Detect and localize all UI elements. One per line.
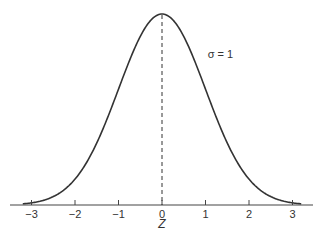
x-tick-label: −2 (69, 208, 82, 220)
x-tick-label: −1 (112, 208, 125, 220)
x-tick-label: 2 (246, 208, 252, 220)
x-tick-label: 1 (202, 208, 208, 220)
normal-distribution-chart: −3−2−10123 Z σ = 1 (0, 0, 327, 242)
x-tick-label: 3 (289, 208, 295, 220)
sigma-annotation: σ = 1 (208, 48, 233, 60)
x-axis-title: Z (157, 217, 166, 231)
x-tick-label: −3 (25, 208, 38, 220)
